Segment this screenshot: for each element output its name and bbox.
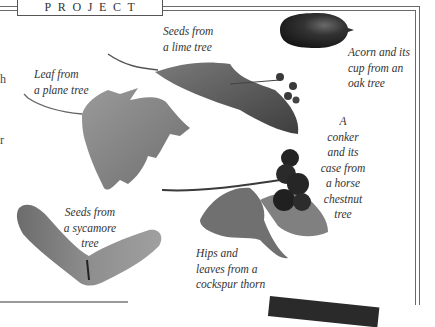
- frame-rule-right-inner: [415, 10, 416, 305]
- caption-line: chestnut: [320, 192, 366, 208]
- caption-line: a sycamore: [55, 221, 125, 237]
- caption-line: conker: [320, 130, 366, 146]
- caption-line: Acorn and its: [348, 45, 410, 61]
- header-rule-left-bottom: [0, 10, 18, 11]
- section-header: PROJECT: [17, 0, 163, 16]
- caption-acorn: Acorn and its cup from an oak tree: [348, 45, 410, 92]
- caption-line: tree: [55, 236, 125, 252]
- caption-line: Leaf from: [34, 67, 89, 83]
- caption-line: case from: [320, 161, 366, 177]
- section-header-label: PROJECT: [39, 0, 142, 15]
- caption-lime-seeds: Seeds from a lime tree: [163, 24, 213, 55]
- caption-conker: A conker and its case from a horse chest…: [320, 114, 366, 223]
- caption-line: cup from an: [348, 61, 410, 77]
- caption-line: Seeds from: [163, 24, 213, 40]
- frame-rule-top-outer: [163, 6, 419, 7]
- caption-line: a horse: [320, 176, 366, 192]
- caption-line: cockspur thorn: [196, 277, 265, 293]
- left-edge-fragment: r: [0, 133, 4, 148]
- caption-line: and its: [320, 145, 366, 161]
- header-rule-left-top: [0, 6, 18, 7]
- caption-line: Hips and: [196, 246, 265, 262]
- frame-rule-right-outer: [419, 6, 420, 305]
- caption-hips-and-leaves: Hips and leaves from a cockspur thorn: [196, 246, 265, 293]
- caption-line: oak tree: [348, 76, 410, 92]
- caption-line: tree: [320, 207, 366, 223]
- caption-line: a plane tree: [34, 83, 89, 99]
- caption-line: leaves from a: [196, 262, 265, 278]
- caption-line: Seeds from: [55, 205, 125, 221]
- acorn-image: [276, 10, 356, 52]
- caption-sycamore-seeds: Seeds from a sycamore tree: [55, 205, 125, 252]
- caption-line: A: [320, 114, 366, 130]
- caption-line: a lime tree: [163, 40, 213, 56]
- caption-plane-leaf: Leaf from a plane tree: [34, 67, 89, 98]
- bottom-divider-line: [0, 301, 128, 303]
- bottom-dark-panel: [268, 296, 379, 327]
- left-edge-fragment: h: [0, 72, 6, 87]
